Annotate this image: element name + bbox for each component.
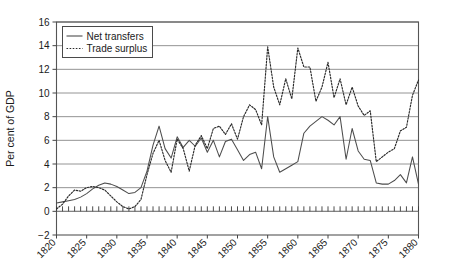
y-tick-label: 4 bbox=[44, 159, 50, 170]
y-tick-label: 6 bbox=[44, 135, 50, 146]
y-axis-title: Per cent of GDP bbox=[4, 90, 16, 166]
y-tick-label: 16 bbox=[38, 17, 50, 28]
x-tick-label: 1875 bbox=[366, 236, 390, 260]
x-tick-label: 1855 bbox=[246, 236, 270, 260]
x-tick-label: 1845 bbox=[185, 236, 209, 260]
y-tick-label: 0 bbox=[44, 206, 50, 217]
chart-canvas: 1614121086420−2 182018251830183518401845… bbox=[0, 0, 456, 273]
x-tick-label: 1860 bbox=[276, 236, 300, 260]
y-tick-label: 14 bbox=[38, 40, 50, 51]
y-tick-label: 2 bbox=[44, 182, 50, 193]
x-tick-label: 1880 bbox=[396, 236, 420, 260]
x-tick-label: 1865 bbox=[306, 236, 330, 260]
y-axis-tick-labels: 1614121086420−2 bbox=[38, 17, 50, 241]
y-tick-label: 10 bbox=[38, 88, 50, 99]
x-tick-label: 1835 bbox=[125, 236, 149, 260]
x-tick-label: 1870 bbox=[336, 236, 360, 260]
chart-figure: 1614121086420−2 182018251830183518401845… bbox=[0, 0, 456, 273]
chart-legend: Net transfersTrade surplus bbox=[63, 27, 153, 58]
x-tick-label: 1850 bbox=[215, 236, 239, 260]
y-axis-ticks bbox=[53, 22, 57, 235]
series-line-1 bbox=[57, 117, 419, 203]
y-tick-label: 8 bbox=[44, 111, 50, 122]
legend-label-2: Trade surplus bbox=[87, 43, 148, 54]
x-tick-label: 1830 bbox=[95, 236, 119, 260]
x-axis-minor-ticks bbox=[57, 206, 419, 211]
x-tick-label: 1840 bbox=[155, 236, 179, 260]
series-lines bbox=[57, 47, 419, 209]
legend-label-1: Net transfers bbox=[87, 31, 144, 42]
y-axis-title-text: Per cent of GDP bbox=[4, 90, 16, 166]
x-tick-label: 1825 bbox=[65, 236, 89, 260]
y-tick-label: 12 bbox=[38, 64, 50, 75]
x-axis-tick-labels: 1820182518301835184018451850185518601865… bbox=[34, 236, 420, 260]
